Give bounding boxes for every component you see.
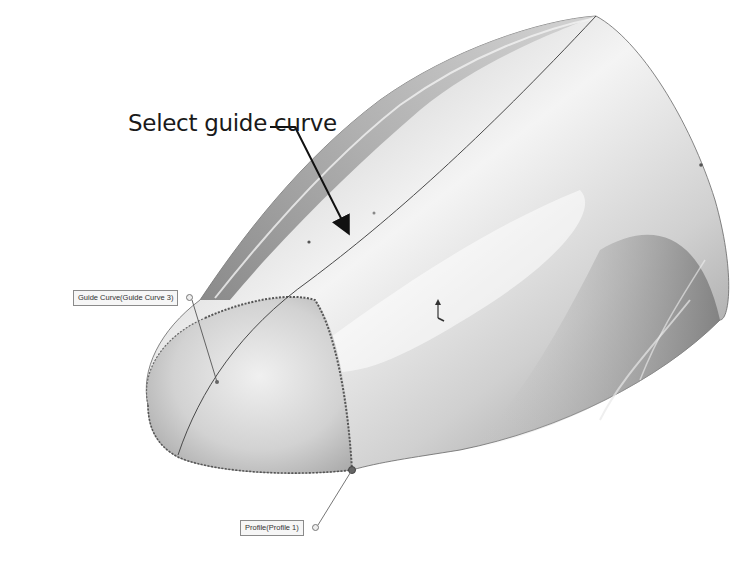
callout-label: Select guide curve	[128, 110, 337, 136]
guide-curve-tag-handle[interactable]	[186, 294, 193, 301]
profile-tag-handle[interactable]	[312, 524, 319, 531]
guide-curve-tag[interactable]: Guide Curve(Guide Curve 3)	[73, 290, 178, 306]
model-canvas[interactable]	[0, 0, 743, 571]
profile-tag[interactable]: Profile(Profile 1)	[240, 520, 304, 536]
graphics-viewport[interactable]: Select guide curve Guide Curve(Guide Cur…	[0, 0, 743, 571]
